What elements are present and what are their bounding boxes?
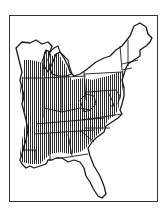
range-map	[0, 0, 166, 213]
range-hatch	[0, 0, 166, 213]
